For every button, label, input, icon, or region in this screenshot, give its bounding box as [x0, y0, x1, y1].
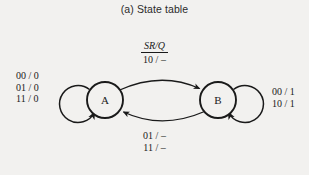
self-loop-b-label-line-2: 10 / 1 [272, 98, 295, 110]
transition-b-to-a-label-line-2: 11 / – [0, 142, 309, 154]
io-legend-denominator: 10 / – [141, 54, 168, 66]
state-node-b-label: B [214, 94, 221, 106]
self-loop-a-label: 00 / 0 01 / 0 11 / 0 [16, 70, 39, 105]
self-loop-b-label: 00 / 1 10 / 1 [272, 86, 295, 109]
transition-b-to-a-label: 01 / – 11 / – [0, 130, 309, 153]
self-loop-a-label-line-2: 01 / 0 [16, 82, 39, 94]
self-loop-a-label-line-1: 00 / 0 [16, 70, 39, 82]
transition-a-to-b-edge [119, 80, 200, 90]
transition-b-to-a-edge [124, 112, 205, 121]
fraction-bar [141, 52, 168, 53]
transition-b-to-a-label-line-1: 01 / – [0, 130, 309, 142]
self-loop-b-label-line-1: 00 / 1 [272, 86, 295, 98]
io-legend-numerator: SR/Q [141, 40, 168, 51]
transition-a-to-b-label: SR/Q 10 / – [0, 40, 309, 67]
state-node-a-label: A [101, 94, 109, 106]
self-loop-a-label-line-3: 11 / 0 [16, 93, 39, 105]
